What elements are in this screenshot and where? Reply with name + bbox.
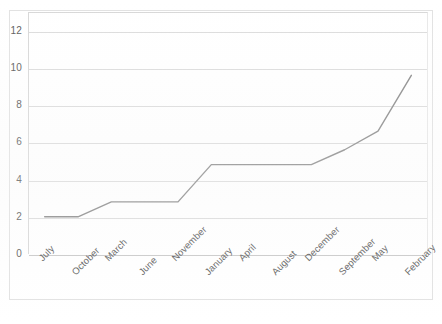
series-line-layer — [28, 12, 428, 254]
line-chart: 024681012 JulyOctoberMarchJuneNovemberJa… — [0, 0, 442, 324]
y-tick-label: 4 — [16, 175, 22, 185]
y-tick-label: 2 — [16, 212, 22, 222]
y-tick-label: 0 — [16, 249, 22, 259]
x-tick-label: June — [137, 255, 159, 277]
y-tick-label: 8 — [16, 100, 22, 110]
x-axis-tick-labels: JulyOctoberMarchJuneNovemberJanuaryApril… — [28, 256, 428, 322]
y-tick-label: 10 — [10, 63, 22, 73]
y-tick-label: 12 — [10, 26, 22, 36]
y-tick-label: 6 — [16, 137, 22, 147]
y-axis-tick-labels: 024681012 — [0, 12, 26, 254]
series-line — [45, 75, 412, 216]
